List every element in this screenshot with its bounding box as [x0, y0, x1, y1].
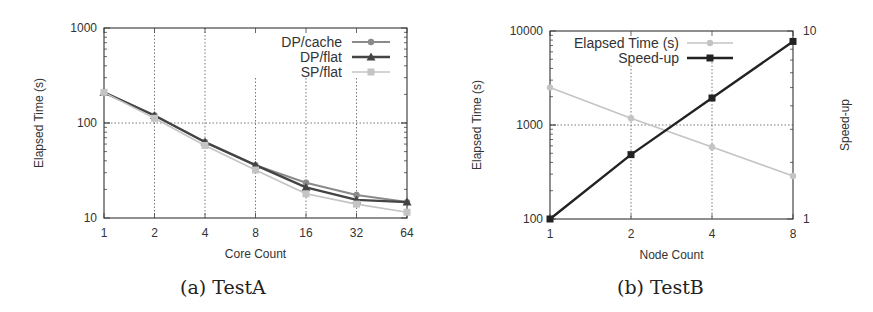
x-tick-label: 8 [252, 226, 259, 240]
data-point [202, 142, 209, 149]
data-point [252, 167, 259, 174]
legend: DP/cacheDP/flatSP/flat [281, 34, 390, 80]
figure-test-b: 1248100100010000110Node CountElapsed Tim… [437, 0, 873, 312]
legend-marker [368, 39, 374, 45]
y-tick-label: 1000 [516, 118, 543, 132]
series-elapsed-time-s- [547, 84, 796, 179]
x-tick-label: 4 [709, 227, 716, 241]
legend-marker [707, 40, 713, 46]
x-tick-label: 2 [151, 226, 158, 240]
y-tick-label: 10 [84, 211, 98, 225]
x-tick-label: 2 [628, 227, 635, 241]
legend-label: DP/flat [300, 49, 342, 65]
x-tick-label: 16 [299, 226, 313, 240]
data-point [628, 115, 634, 121]
x-axis-label: Node Count [639, 248, 704, 262]
x-tick-label: 32 [350, 226, 364, 240]
caption-test-b: (b) TestB [617, 276, 704, 298]
data-point [790, 173, 796, 179]
data-point [303, 190, 310, 197]
y2-axis-label: Speed-up [838, 99, 852, 151]
legend-label: Speed-up [618, 50, 679, 66]
data-point [628, 151, 635, 158]
x-tick-label: 64 [400, 226, 414, 240]
data-point [151, 115, 158, 122]
legend-marker [368, 69, 375, 76]
legend-label: SP/flat [301, 64, 342, 80]
data-point [547, 84, 553, 90]
data-point [547, 216, 554, 223]
legend-label: Elapsed Time (s) [574, 35, 679, 51]
x-tick-label: 4 [202, 226, 209, 240]
x-axis-label: Core Count [225, 247, 287, 261]
y-tick-label: 10000 [510, 24, 544, 38]
x-tick-label: 8 [790, 227, 797, 241]
x-tick-label: 1 [547, 227, 554, 241]
caption-test-a: (a) TestA [180, 276, 266, 298]
y2-tick-label: 1 [803, 212, 810, 226]
x-tick-label: 1 [101, 226, 108, 240]
legend-marker [707, 55, 714, 62]
legend-label: DP/cache [281, 34, 342, 50]
data-point [101, 89, 108, 96]
figure-test-a: 1248163264101001000Core CountElapsed Tim… [0, 0, 436, 312]
y-tick-label: 1000 [70, 21, 97, 35]
y-axis-label: Elapsed Time (s) [32, 78, 46, 168]
y-tick-label: 100 [523, 212, 543, 226]
data-point [709, 144, 715, 150]
data-point [404, 209, 411, 216]
data-point [353, 201, 360, 208]
legend: Elapsed Time (s)Speed-up [574, 35, 733, 66]
data-point [790, 38, 797, 45]
y-axis-label: Elapsed Time (s) [470, 80, 484, 170]
y-tick-label: 100 [77, 116, 97, 130]
y2-tick-label: 10 [803, 24, 817, 38]
data-point [709, 95, 716, 102]
chart-test-a: 1248163264101001000Core CountElapsed Tim… [0, 0, 436, 270]
chart-test-b: 1248100100010000110Node CountElapsed Tim… [437, 0, 873, 270]
gridlines [550, 62, 793, 219]
